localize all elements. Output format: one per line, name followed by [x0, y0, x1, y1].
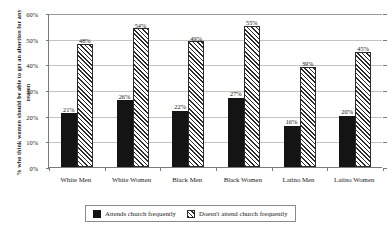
bar-value-label: 20% [341, 108, 353, 115]
bar: 55% [244, 26, 260, 167]
bar-value-label: 49% [190, 35, 202, 42]
bar: 49% [188, 41, 204, 167]
gridline [49, 14, 382, 15]
bar: 45% [355, 52, 371, 168]
bar-group: 26%54% [117, 14, 149, 167]
x-axis-tick-mark [383, 168, 384, 171]
gridline [49, 142, 382, 143]
bar-group: 22%49% [172, 14, 204, 167]
gridline [49, 40, 382, 41]
bar-value-label: 54% [135, 22, 147, 29]
x-axis-category-label: Black Women [224, 176, 262, 183]
legend-label: Attends church frequently [105, 210, 176, 217]
bar: 54% [133, 28, 149, 167]
y-axis-tick-label: 40% [0, 62, 38, 69]
y-axis-tick-mark-right [383, 117, 387, 118]
plot-area: 0%10%20%30%40%50%60% 21%48%26%54%22%49%2… [48, 14, 382, 168]
y-axis-tick-label: 0% [0, 165, 38, 172]
gridline [49, 91, 382, 92]
bar: 16% [284, 126, 300, 167]
y-axis-tick-mark [46, 117, 49, 118]
y-axis-tick-mark [46, 14, 49, 15]
chart-legend: Attends church frequentlyDoesn't attend … [85, 205, 296, 222]
gridline [49, 65, 382, 66]
x-axis-category-label: White Women [112, 176, 151, 183]
y-axis-tick-mark [46, 40, 49, 41]
bar-value-label: 39% [302, 60, 314, 67]
x-axis-tick-mark [49, 168, 50, 171]
x-axis-tick-mark [105, 168, 106, 171]
y-axis-tick-label: 60% [0, 11, 38, 18]
y-axis-tick-mark-right [383, 40, 387, 41]
legend-entry: Doesn't attend church frequently [187, 210, 288, 218]
bar-value-label: 45% [357, 45, 369, 52]
bar-value-label: 22% [174, 103, 186, 110]
y-axis-tick-mark-right [383, 91, 387, 92]
bar-group: 27%55% [228, 14, 260, 167]
bar: 48% [77, 44, 93, 167]
legend-swatch-icon [187, 210, 195, 218]
legend-swatch-icon [93, 210, 101, 218]
bar-value-label: 26% [119, 93, 131, 100]
x-axis-tick-mark [216, 168, 217, 171]
bar-value-label: 27% [230, 90, 242, 97]
bar: 20% [339, 116, 355, 167]
x-axis-category-label: Black Men [172, 176, 202, 183]
bar: 26% [117, 100, 133, 167]
bar-group: 21%48% [61, 14, 93, 167]
x-axis-tick-mark [327, 168, 328, 171]
bar-group: 20%45% [339, 14, 371, 167]
bar: 39% [300, 67, 316, 167]
bar-value-label: 48% [79, 37, 91, 44]
bar-value-label: 55% [246, 19, 258, 26]
y-axis-tick-mark [46, 65, 49, 66]
bar: 27% [228, 98, 244, 167]
bar-value-label: 21% [63, 106, 75, 113]
legend-label: Doesn't attend church frequently [199, 210, 288, 217]
y-axis-tick-label: 50% [0, 36, 38, 43]
y-axis-tick-mark [46, 142, 49, 143]
y-axis-tick-label: 30% [0, 88, 38, 95]
bar: 22% [172, 111, 188, 167]
legend-entry: Attends church frequently [93, 210, 176, 218]
y-axis-tick-label: 10% [0, 139, 38, 146]
y-axis-tick-mark-right [383, 14, 387, 15]
y-axis-tick-mark-right [383, 65, 387, 66]
y-axis-tick-label: 20% [0, 113, 38, 120]
bar-chart: % who think women should be able to get … [0, 0, 392, 231]
gridline [49, 117, 382, 118]
y-axis-tick-mark-right [383, 142, 387, 143]
y-axis-tick-mark [46, 91, 49, 92]
bar-group: 16%39% [284, 14, 316, 167]
x-axis-category-label: White Men [60, 176, 91, 183]
x-axis-category-label: Latino Men [283, 176, 315, 183]
x-axis-tick-mark [272, 168, 273, 171]
x-axis-category-label: Latino Women [334, 176, 374, 183]
x-axis-tick-mark [160, 168, 161, 171]
bar-value-label: 16% [286, 118, 298, 125]
bar: 21% [61, 113, 77, 167]
